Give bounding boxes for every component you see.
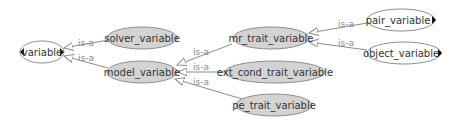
node-label: pair_variable xyxy=(366,15,431,27)
node-label: ext_cond_trait_variable xyxy=(217,67,333,79)
node-mr-trait-variable[interactable]: mr_trait_variable xyxy=(228,27,313,49)
node-model-variable[interactable]: model_variable xyxy=(104,61,180,83)
edge-model-variable-to-variable: is-a xyxy=(64,53,108,68)
node-label: variable xyxy=(22,47,62,58)
edge-label: is-a xyxy=(338,38,354,48)
class-hierarchy-graph: is-a is-a is-a is-a is-a is-a is-a varia… xyxy=(0,0,457,122)
node-ext-cond-trait-variable[interactable]: ext_cond_trait_variable xyxy=(217,61,333,83)
edge-pe-trait-variable-to-model-variable: is-a xyxy=(175,77,242,99)
edge-object-variable-to-mr-trait-variable: is-a xyxy=(309,38,367,50)
node-pair-variable[interactable]: pair_variable xyxy=(366,9,436,31)
node-label: object_variable xyxy=(363,48,439,60)
node-label: solver_variable xyxy=(104,33,180,45)
edge-label: is-a xyxy=(78,38,94,48)
node-object-variable[interactable]: object_variable xyxy=(363,42,442,64)
edge-label: is-a xyxy=(338,19,354,29)
edge-label: is-a xyxy=(78,53,94,63)
node-label: mr_trait_variable xyxy=(228,33,313,45)
node-variable[interactable]: variable xyxy=(20,41,64,63)
edge-label: is-a xyxy=(193,77,209,87)
node-solver-variable[interactable]: solver_variable xyxy=(104,27,180,49)
edge-label: is-a xyxy=(193,47,209,57)
node-label: model_variable xyxy=(104,67,180,79)
node-pe-trait-variable[interactable]: pe_trait_variable xyxy=(232,94,316,116)
edge-pair-variable-to-mr-trait-variable: is-a xyxy=(309,19,367,33)
node-label: pe_trait_variable xyxy=(232,100,316,112)
edge-solver-variable-to-variable: is-a xyxy=(64,38,108,48)
edge-label: is-a xyxy=(193,62,209,72)
